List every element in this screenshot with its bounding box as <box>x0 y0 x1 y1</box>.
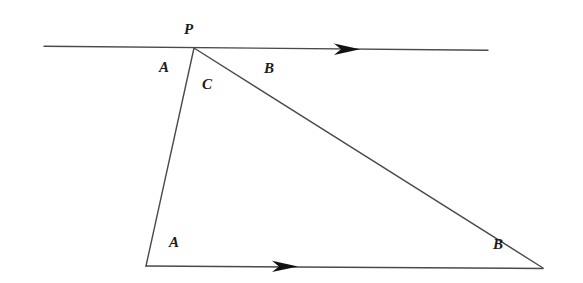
geometry-diagram: P A C B A B <box>0 0 583 283</box>
angle-label-c-top: C <box>202 77 212 92</box>
angle-label-b-bottom: B <box>493 237 503 252</box>
triangle-hypotenuse <box>194 48 543 268</box>
vertex-label-p: P <box>184 22 193 37</box>
triangle-base <box>146 266 543 269</box>
top-parallel-line <box>44 46 488 50</box>
angle-label-a-top: A <box>159 60 169 75</box>
angle-label-a-bottom: A <box>169 235 179 250</box>
angle-label-b-top: B <box>264 61 274 76</box>
